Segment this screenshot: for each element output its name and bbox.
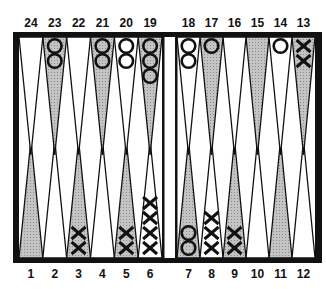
- point-2[interactable]: [43, 140, 67, 258]
- point-24[interactable]: [19, 37, 43, 155]
- point-number-label: 12: [292, 267, 316, 281]
- point-number-label: 2: [43, 267, 67, 281]
- point-number-label: 23: [43, 16, 67, 30]
- point-number-label: 21: [90, 16, 114, 30]
- point-number-label: 16: [223, 16, 247, 30]
- checker-o[interactable]: [119, 54, 133, 68]
- point-16[interactable]: [223, 37, 246, 155]
- point-10[interactable]: [246, 140, 269, 258]
- point-number-label: 14: [269, 16, 293, 30]
- point-17[interactable]: [200, 37, 223, 155]
- checker-o[interactable]: [96, 39, 110, 53]
- point-8[interactable]: [200, 140, 223, 258]
- point-6[interactable]: [138, 140, 162, 258]
- point-number-label: 8: [200, 267, 224, 281]
- point-number-label: 19: [138, 16, 162, 30]
- point-number-label: 7: [177, 267, 201, 281]
- checker-o[interactable]: [182, 226, 196, 240]
- board-frame: [13, 32, 19, 263]
- bar-divider: [175, 37, 178, 258]
- point-14[interactable]: [269, 37, 292, 155]
- point-22[interactable]: [67, 37, 91, 155]
- point-number-label: 13: [292, 16, 316, 30]
- point-13[interactable]: [292, 37, 315, 155]
- checker-o[interactable]: [182, 39, 196, 53]
- point-number-label: 3: [67, 267, 91, 281]
- point-number-label: 10: [246, 267, 270, 281]
- point-number-label: 15: [246, 16, 270, 30]
- board-frame: [13, 258, 322, 263]
- checker-o[interactable]: [48, 54, 62, 68]
- checker-o[interactable]: [143, 39, 157, 53]
- board-frame: [315, 32, 322, 263]
- checker-o[interactable]: [48, 39, 62, 53]
- point-number-label: 24: [19, 16, 43, 30]
- board-graphic: [0, 0, 326, 289]
- checker-o[interactable]: [119, 39, 133, 53]
- bar-divider: [162, 37, 165, 258]
- point-number-label: 17: [200, 16, 224, 30]
- point-9[interactable]: [223, 140, 246, 258]
- point-number-label: 9: [223, 267, 247, 281]
- checker-o[interactable]: [182, 54, 196, 68]
- point-11[interactable]: [269, 140, 292, 258]
- point-number-label: 20: [114, 16, 138, 30]
- point-number-label: 1: [19, 267, 43, 281]
- point-number-label: 22: [67, 16, 91, 30]
- checker-o[interactable]: [143, 69, 157, 83]
- point-3[interactable]: [67, 140, 91, 258]
- board-frame: [13, 32, 322, 37]
- checker-o[interactable]: [143, 54, 157, 68]
- point-5[interactable]: [114, 140, 138, 258]
- point-1[interactable]: [19, 140, 43, 258]
- point-12[interactable]: [292, 140, 315, 258]
- point-15[interactable]: [246, 37, 269, 155]
- point-number-label: 11: [269, 267, 293, 281]
- checker-o[interactable]: [96, 54, 110, 68]
- point-number-label: 5: [114, 267, 138, 281]
- point-number-label: 6: [138, 267, 162, 281]
- point-number-label: 18: [177, 16, 201, 30]
- checker-o[interactable]: [182, 241, 196, 255]
- checker-o[interactable]: [274, 39, 288, 53]
- point-4[interactable]: [91, 140, 115, 258]
- checker-o[interactable]: [205, 39, 219, 53]
- point-number-label: 4: [90, 267, 114, 281]
